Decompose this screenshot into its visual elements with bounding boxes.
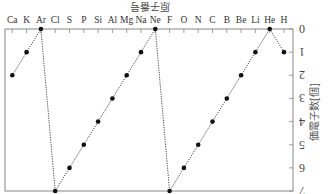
x-label-si: Si (94, 15, 102, 25)
data-point-li (253, 50, 258, 55)
data-point-p (82, 142, 87, 147)
x-label-li: Li (251, 15, 260, 25)
data-point-ca (10, 73, 15, 78)
data-point-mg (124, 73, 129, 78)
x-label-mg: Mg (120, 15, 133, 25)
x-label-k: K (23, 15, 30, 25)
x-label-be: Be (236, 15, 247, 25)
data-point-he (267, 27, 272, 32)
data-point-ne (153, 27, 158, 32)
data-point-k (24, 50, 29, 55)
x-label-c: C (209, 15, 215, 25)
data-point-na (139, 50, 144, 55)
data-point-h (282, 50, 287, 55)
data-point-b (225, 96, 230, 101)
y-tick-label-3: 3 (299, 91, 305, 105)
x-label-h: H (281, 15, 288, 25)
y-axis-ticks: 01234567 (289, 22, 305, 194)
data-point-al (110, 96, 115, 101)
plot-frame (5, 29, 293, 191)
y-tick-label-2: 2 (299, 68, 305, 82)
x-label-ca: Ca (7, 15, 18, 25)
x-label-ar: Ar (36, 15, 47, 25)
valence-electron-chart: 原子番号 HHeLiBeBCNOFNeNaMgAlSiPSClArKCa 012… (0, 0, 328, 194)
x-label-b: B (224, 15, 230, 25)
data-point-s (67, 166, 72, 171)
x-label-f: F (167, 15, 172, 25)
data-point-n (196, 142, 201, 147)
data-series-line (10, 27, 286, 194)
y-axis-label: 価電子数[個] (308, 83, 320, 141)
y-tick-label-7: 7 (299, 184, 305, 194)
x-label-s: S (67, 15, 72, 25)
y-tick-label-5: 5 (299, 138, 305, 152)
data-point-o (182, 166, 187, 171)
chart-title: 原子番号 (130, 1, 170, 12)
y-tick-label-1: 1 (299, 45, 305, 59)
y-tick-label-4: 4 (299, 115, 305, 129)
x-label-he: He (264, 15, 275, 25)
data-point-f (167, 189, 172, 194)
x-label-al: Al (108, 15, 118, 25)
x-label-ne: Ne (150, 15, 161, 25)
data-point-si (96, 119, 101, 124)
x-axis-element-labels: HHeLiBeBCNOFNeNaMgAlSiPSClArKCa (7, 15, 288, 25)
data-point-ar (39, 27, 44, 32)
x-label-na: Na (135, 15, 147, 25)
x-label-o: O (180, 15, 187, 25)
data-point-be (239, 73, 244, 78)
data-point-c (210, 119, 215, 124)
x-label-cl: Cl (51, 15, 60, 25)
y-tick-label-6: 6 (299, 161, 305, 175)
data-point-cl (53, 189, 58, 194)
plot-border (5, 29, 293, 191)
series-line (12, 29, 284, 191)
y-tick-label-0: 0 (299, 22, 305, 36)
x-label-p: P (81, 15, 86, 25)
x-label-n: N (195, 15, 202, 25)
